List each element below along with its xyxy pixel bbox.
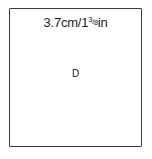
dimension-metric: 3.7cm/1 xyxy=(43,15,88,30)
center-letter-label: D xyxy=(10,68,141,79)
dimension-label: 3.7cm/13/8in xyxy=(10,15,141,30)
square-outline: 3.7cm/13/8in D xyxy=(9,8,142,147)
dimension-unit: in xyxy=(98,15,108,30)
dimension-fraction: 3/8 xyxy=(88,17,98,26)
